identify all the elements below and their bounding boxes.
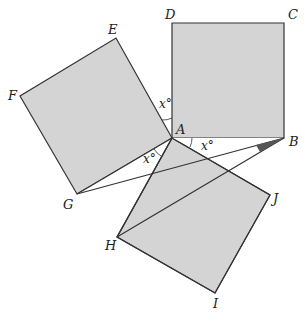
angle-arc-top	[162, 118, 172, 120]
label-d: D	[164, 7, 176, 22]
angle-label-right: x°	[201, 139, 214, 153]
geometry-diagram: A B C D E F G H I J x° x° x°	[0, 0, 304, 318]
label-e: E	[107, 22, 118, 37]
label-b: B	[288, 134, 299, 149]
label-a: A	[175, 122, 185, 137]
label-h: H	[104, 238, 117, 253]
angle-label-top: x°	[159, 97, 172, 111]
square-abcd	[172, 23, 284, 138]
label-j: J	[270, 191, 279, 206]
angle-label-left: x°	[143, 152, 156, 166]
label-i: I	[212, 296, 219, 311]
label-g: G	[63, 197, 73, 212]
label-c: C	[288, 7, 298, 22]
label-f: F	[7, 88, 18, 103]
